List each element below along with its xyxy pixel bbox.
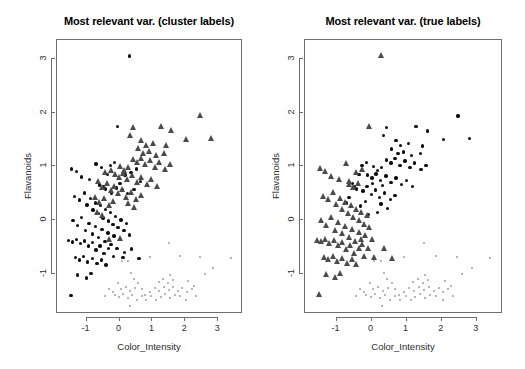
- data-point: [133, 278, 135, 280]
- data-point: [177, 290, 179, 292]
- data-point: [435, 255, 437, 257]
- data-point: [355, 295, 357, 297]
- data-point: [380, 260, 382, 262]
- data-point: [155, 299, 157, 301]
- data-point: [419, 293, 421, 295]
- data-point: [169, 274, 171, 276]
- data-point: [389, 299, 391, 301]
- data-point: [172, 286, 174, 288]
- data-point: [438, 287, 440, 289]
- data-point: [164, 293, 166, 295]
- data-point: [383, 272, 385, 274]
- data-point: [191, 288, 193, 290]
- data-point: [372, 288, 374, 290]
- data-point: [118, 296, 120, 298]
- data-point: [122, 293, 124, 295]
- data-point: [204, 273, 206, 275]
- data-point: [461, 273, 463, 275]
- data-point: [417, 278, 419, 280]
- data-point: [174, 294, 176, 296]
- data-point: [186, 291, 188, 293]
- data-point: [129, 305, 131, 307]
- data-point: [168, 289, 170, 291]
- data-point: [120, 288, 122, 290]
- data-point: [447, 288, 449, 290]
- data-point: [134, 287, 136, 289]
- data-point: [379, 297, 381, 299]
- data-point: [162, 278, 164, 280]
- data-point: [373, 260, 375, 262]
- data-point: [369, 282, 371, 284]
- data-point: [145, 299, 147, 301]
- data-point: [423, 289, 425, 291]
- data-point: [195, 295, 197, 297]
- data-point: [108, 288, 110, 290]
- data-point: [158, 290, 160, 292]
- data-point: [169, 297, 171, 299]
- data-point: [399, 299, 401, 301]
- data-point: [428, 286, 430, 288]
- data-point: [114, 294, 116, 296]
- data-point: [365, 294, 367, 296]
- data-point: [181, 287, 183, 289]
- data-point: [185, 299, 187, 301]
- data-point: [410, 299, 412, 301]
- series-group-3-small-dots: [262, 0, 525, 369]
- data-point: [158, 281, 160, 283]
- data-point: [141, 295, 143, 297]
- data-point: [382, 290, 384, 292]
- data-point: [384, 294, 386, 296]
- data-point: [386, 278, 388, 280]
- data-point: [363, 291, 365, 293]
- data-point: [179, 255, 181, 257]
- data-point: [414, 296, 416, 298]
- data-point: [136, 299, 138, 301]
- data-point: [199, 256, 201, 258]
- data-point: [359, 288, 361, 290]
- data-point: [144, 294, 146, 296]
- data-point: [172, 279, 174, 281]
- data-point: [150, 295, 152, 297]
- data-point: [149, 256, 151, 258]
- data-point: [127, 297, 129, 299]
- data-point: [131, 294, 133, 296]
- data-point: [442, 291, 444, 293]
- data-point: [137, 282, 139, 284]
- data-point: [403, 256, 405, 258]
- data-point: [450, 285, 452, 287]
- data-point: [104, 295, 106, 297]
- data-point: [403, 291, 405, 293]
- data-point: [230, 257, 232, 259]
- data-point: [370, 296, 372, 298]
- data-point: [167, 282, 169, 284]
- data-point: [160, 296, 162, 298]
- data-point: [129, 290, 131, 292]
- data-point: [394, 288, 396, 290]
- data-point: [163, 286, 165, 288]
- data-point: [433, 290, 435, 292]
- data-point: [429, 294, 431, 296]
- data-point: [398, 294, 400, 296]
- data-point: [444, 280, 446, 282]
- data-point: [112, 291, 114, 293]
- data-point: [471, 267, 473, 269]
- data-point: [149, 291, 151, 293]
- data-point: [179, 295, 181, 297]
- data-point: [413, 290, 415, 292]
- data-point: [168, 242, 170, 244]
- data-point: [423, 242, 425, 244]
- data-point: [130, 272, 132, 274]
- data-point: [127, 260, 129, 262]
- data-point: [424, 297, 426, 299]
- data-point: [377, 286, 379, 288]
- data-point: [374, 293, 376, 295]
- data-point: [424, 274, 426, 276]
- data-point: [387, 287, 389, 289]
- data-point: [435, 295, 437, 297]
- data-point: [193, 285, 195, 287]
- data-point: [422, 282, 424, 284]
- data-point: [154, 287, 156, 289]
- figure-canvas: Most relevant var. (cluster labels)-1012…: [0, 0, 525, 369]
- data-point: [381, 305, 383, 307]
- data-point: [452, 295, 454, 297]
